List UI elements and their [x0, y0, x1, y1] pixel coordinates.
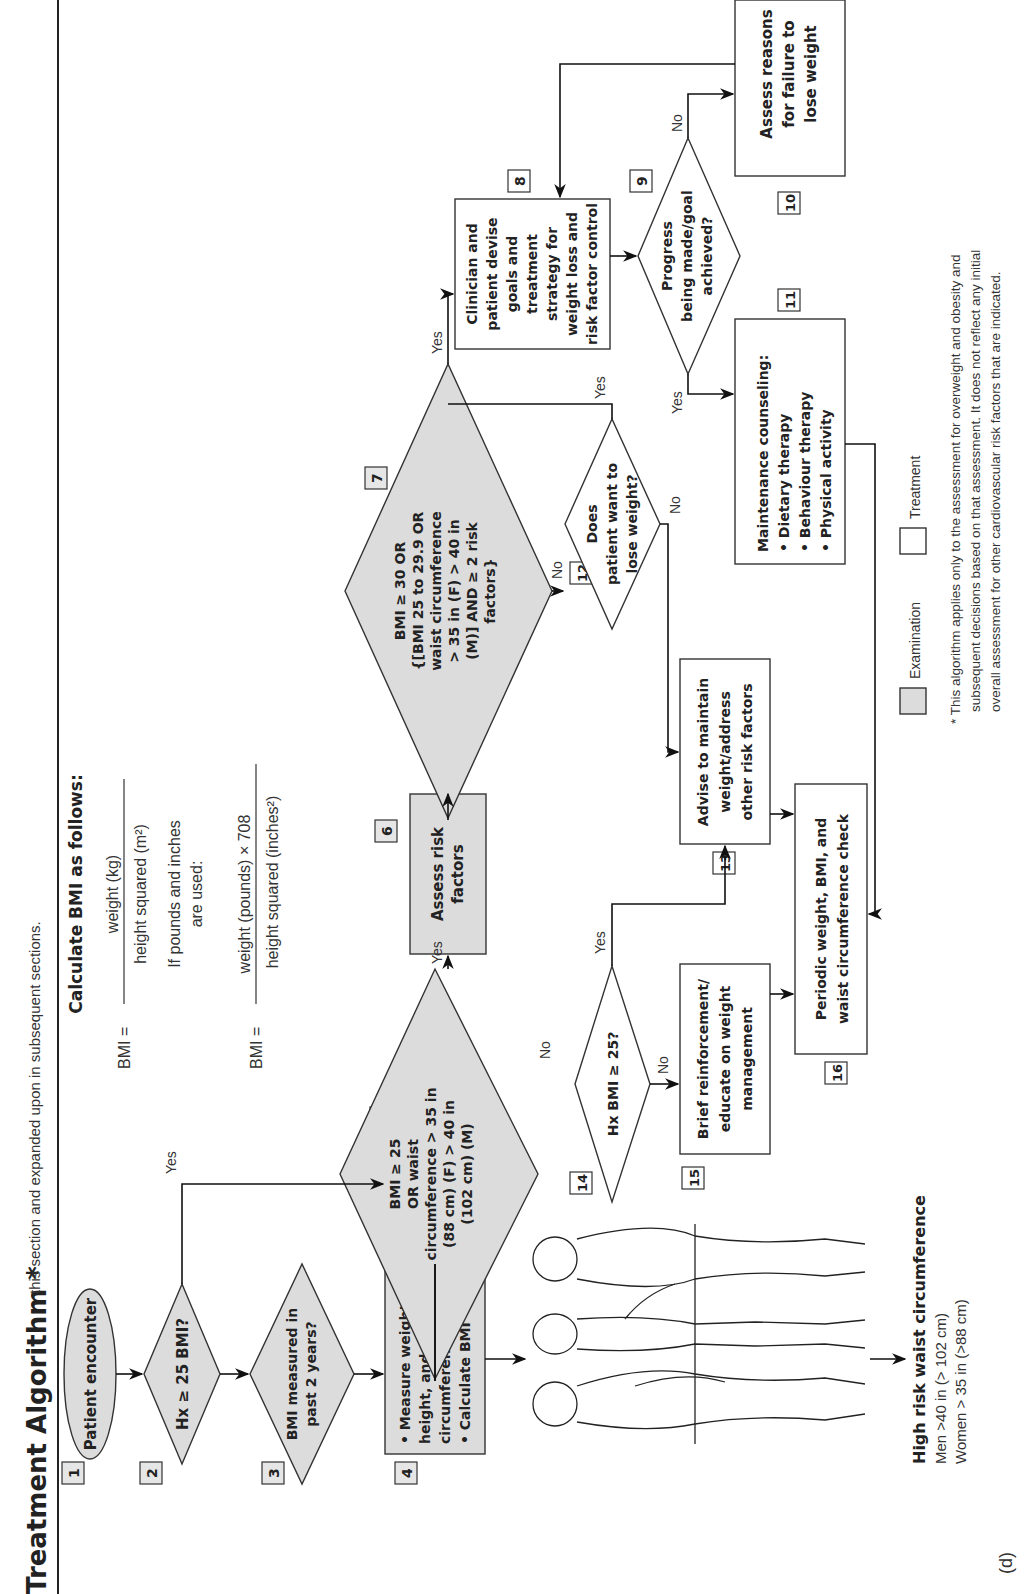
svg-text:Hx BMI ≥ 25?: Hx BMI ≥ 25? — [605, 1032, 621, 1137]
svg-text:overall assessment for other c: overall assessment for other cardiovascu… — [988, 272, 1003, 712]
svg-text:management: management — [739, 1007, 755, 1111]
legend-swatch-examination — [900, 688, 926, 714]
svg-text:Yes: Yes — [592, 931, 608, 954]
node-13-advise: 13 Advise to maintain weight/address oth… — [680, 659, 770, 874]
bmi-metric-numerator: weight (kg) — [104, 855, 121, 934]
svg-text:6: 6 — [379, 826, 395, 836]
svg-text:Does: Does — [584, 504, 600, 543]
svg-text:• Physical activity: • Physical activity — [818, 409, 834, 552]
svg-text:• Calculate BMI: • Calculate BMI — [457, 1322, 473, 1444]
svg-text:Yes: Yes — [163, 1151, 179, 1174]
svg-text:Yes: Yes — [669, 391, 685, 414]
svg-text:goals and: goals and — [504, 236, 520, 313]
svg-text:Maintenance counseling:: Maintenance counseling: — [755, 355, 771, 552]
figure-skeleton — [533, 1284, 865, 1354]
node-3-bmi-measured: 3 BMI measured in past 2 years? — [250, 1264, 354, 1484]
svg-text:Hx ≥ 25 BMI?: Hx ≥ 25 BMI? — [174, 1318, 192, 1430]
svg-text:patient devise: patient devise — [484, 217, 500, 330]
legend-swatch-treatment — [900, 528, 926, 554]
svg-text:(102 cm) (M): (102 cm) (M) — [459, 1123, 475, 1224]
page-subtitle: this section and expanded upon in subseq… — [26, 921, 43, 1294]
svg-text:15: 15 — [687, 1169, 702, 1187]
svg-text:OR waist: OR waist — [405, 1139, 421, 1209]
svg-text:8: 8 — [512, 176, 528, 186]
body-figures-illustration — [533, 1224, 865, 1444]
flowchart-page: Treatment Algorithm * this section and e… — [0, 0, 1030, 1594]
svg-text:• Dietary therapy: • Dietary therapy — [776, 414, 792, 552]
bmi-lhs-imperial: BMI = — [248, 1027, 265, 1069]
svg-text:lose weight: lose weight — [802, 25, 820, 123]
panel-label: (d) — [996, 1552, 1016, 1574]
node-5-bmi-waist: 5 BMI ≥ 25 OR waist circumference > 35 i… — [340, 969, 538, 1379]
node-9-progress: 9 Progress being made/goal achieved? — [630, 138, 740, 374]
svg-text:other risk factors: other risk factors — [739, 683, 755, 820]
waist-criteria: High risk waist circumference Men >40 in… — [910, 1195, 969, 1464]
bmi-heading: Calculate BMI as follows: — [66, 774, 86, 1014]
bmi-lhs-metric: BMI = — [116, 1027, 133, 1069]
figure-female-side — [533, 1371, 865, 1429]
node-16-periodic-check: 16 Periodic weight, BMI, and waist circu… — [795, 784, 867, 1084]
svg-text:being made/goal: being made/goal — [679, 190, 695, 322]
node-12-want-lose: 12 Does patient want to lose weight? — [565, 419, 660, 629]
svg-text:Patient encounter: Patient encounter — [82, 1297, 100, 1450]
header: Treatment Algorithm * this section and e… — [22, 0, 58, 1594]
svg-text:factors: factors — [449, 844, 467, 903]
svg-text:{[BMI 25 to 29.9 OR: {[BMI 25 to 29.9 OR — [410, 511, 426, 670]
decision-shape — [250, 1264, 354, 1484]
svg-text:3: 3 — [266, 1468, 282, 1478]
bmi-imperial-denominator: height squared (inches²) — [264, 796, 281, 969]
svg-text:No: No — [669, 114, 685, 132]
svg-text:No: No — [549, 561, 565, 579]
svg-text:> 35 in (F) > 40 in: > 35 in (F) > 40 in — [446, 519, 462, 663]
node-8-devise-goals: 8 Clinician and patient devise goals and… — [455, 170, 610, 349]
node-1-patient-encounter: 1 Patient encounter — [62, 1289, 116, 1484]
bmi-formula: Calculate BMI as follows: BMI = weight (… — [66, 764, 281, 1069]
svg-text:14: 14 — [575, 1174, 590, 1192]
node-15-brief-reinforcement: 15 Brief reinforcement/ educate on weigh… — [680, 964, 770, 1189]
svg-text:No: No — [537, 1041, 553, 1059]
legend: Examination Treatment — [900, 456, 926, 714]
svg-text:11: 11 — [783, 291, 798, 309]
svg-text:Assess risk: Assess risk — [429, 826, 447, 921]
bmi-metric-denominator: height squared (m²) — [132, 824, 149, 964]
svg-text:BMI ≥ 30 OR: BMI ≥ 30 OR — [392, 542, 408, 641]
svg-text:Periodic weight, BMI, and: Periodic weight, BMI, and — [813, 818, 829, 1021]
node-6-assess-risk: 6 Assess risk factors — [375, 794, 486, 954]
decision-shape — [340, 969, 538, 1379]
waist-heading: High risk waist circumference — [910, 1195, 929, 1464]
svg-text:past 2 years?: past 2 years? — [303, 1321, 319, 1426]
node-10-assess-failure: 10 Assess reasons for failure to lose we… — [735, 0, 845, 214]
svg-text:Yes: Yes — [429, 941, 445, 964]
page-title: Treatment Algorithm * — [22, 1266, 52, 1594]
svg-text:treatment: treatment — [524, 234, 540, 314]
node-2-hx-bmi: 2 Hx ≥ 25 BMI? — [140, 1284, 220, 1484]
svg-text:7: 7 — [369, 473, 385, 483]
imperial-note-1: If pounds and inches — [166, 820, 183, 968]
svg-text:• Behaviour therapy: • Behaviour therapy — [797, 392, 813, 552]
svg-text:1: 1 — [66, 1468, 82, 1478]
svg-text:4: 4 — [399, 1468, 415, 1478]
figure-male-side — [533, 1228, 865, 1286]
svg-text:9: 9 — [634, 176, 650, 186]
svg-text:Brief reinforcement/: Brief reinforcement/ — [695, 978, 711, 1139]
svg-text:educate on weight: educate on weight — [717, 985, 733, 1132]
svg-text:No: No — [655, 1056, 671, 1074]
svg-text:* This algorithm applies only: * This algorithm applies only to the ass… — [948, 254, 963, 724]
waist-women: Women > 35 in (>88 cm) — [952, 1299, 969, 1464]
svg-text:patient want to: patient want to — [604, 463, 620, 586]
svg-text:Advise to maintain: Advise to maintain — [695, 678, 711, 826]
svg-text:Yes: Yes — [429, 331, 445, 354]
svg-text:subsequent decisions based on: subsequent decisions based on that asses… — [968, 250, 983, 712]
imperial-note-2: are used: — [188, 861, 205, 928]
svg-text:risk factor control: risk factor control — [584, 203, 600, 345]
svg-text:Assess reasons: Assess reasons — [758, 9, 776, 138]
footnote: * This algorithm applies only to the ass… — [948, 250, 1003, 724]
svg-text:factors}: factors} — [482, 558, 498, 623]
legend-examination: Examination — [907, 602, 923, 679]
svg-text:2: 2 — [144, 1468, 160, 1478]
svg-text:No: No — [667, 496, 683, 514]
svg-text:BMI measured in: BMI measured in — [284, 1308, 300, 1441]
svg-text:achieved?: achieved? — [699, 217, 715, 296]
svg-text:Progress: Progress — [659, 221, 675, 291]
node-14-hx-bmi25: 14 Hx BMI ≥ 25? — [570, 966, 650, 1202]
